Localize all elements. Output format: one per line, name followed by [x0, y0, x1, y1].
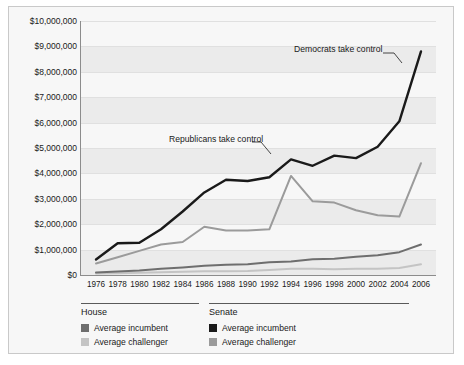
y-axis-tick-label: $0: [11, 271, 77, 280]
legend-group-senate: Senate Average incumbent Average challen…: [209, 307, 296, 351]
y-axis-tick-label: $6,000,000: [11, 119, 77, 128]
legend-swatch-senate-challenger: [209, 338, 217, 346]
y-axis-tick-label: $5,000,000: [11, 144, 77, 153]
legend-item-house-challenger[interactable]: Average challenger: [81, 337, 168, 347]
legend-group-senate-title: Senate: [209, 307, 296, 318]
legend-label-house-challenger: Average challenger: [94, 337, 168, 347]
legend-item-senate-challenger[interactable]: Average challenger: [209, 337, 296, 347]
x-axis-line: [80, 275, 436, 276]
data-series-layer: [81, 21, 436, 275]
plot-area: [81, 21, 436, 275]
annotation-republicans-take-control: Republicans take control: [169, 135, 263, 144]
y-axis-tick-label: $1,000,000: [11, 246, 77, 255]
legend-label-house-incumbent: Average incumbent: [94, 323, 168, 333]
chart-figure: $0$1,000,000$2,000,000$3,000,000$4,000,0…: [8, 6, 454, 354]
y-axis-tick-label: $10,000,000: [11, 17, 77, 26]
x-axis-tick-label: 2006: [408, 279, 434, 291]
y-axis-line: [80, 21, 81, 276]
legend-rule-senate: [209, 303, 409, 304]
legend-swatch-house-incumbent: [81, 324, 89, 332]
legend-swatch-house-challenger: [81, 338, 89, 346]
series-line: [96, 51, 421, 259]
y-axis-tick-label: $7,000,000: [11, 93, 77, 102]
y-axis-tick-label: $4,000,000: [11, 169, 77, 178]
y-axis-tick-label: $8,000,000: [11, 68, 77, 77]
series-line: [96, 264, 421, 273]
legend-rule-house: [81, 303, 199, 304]
legend-swatch-senate-incumbent: [209, 324, 217, 332]
legend-group-house-title: House: [81, 307, 168, 318]
y-axis-tick-label: $3,000,000: [11, 195, 77, 204]
legend-label-senate-challenger: Average challenger: [222, 337, 296, 347]
y-axis-tick-labels: $0$1,000,000$2,000,000$3,000,000$4,000,0…: [9, 7, 77, 307]
y-axis-tick-label: $9,000,000: [11, 42, 77, 51]
legend-group-house: House Average incumbent Average challeng…: [81, 307, 168, 351]
x-axis-tick-labels: 1976197819801982198419861988199019921994…: [81, 279, 436, 293]
y-axis-tick-label: $2,000,000: [11, 220, 77, 229]
legend-label-senate-incumbent: Average incumbent: [222, 323, 296, 333]
annotation-democrats-take-control: Democrats take control: [294, 45, 382, 54]
legend-item-house-incumbent[interactable]: Average incumbent: [81, 323, 168, 333]
legend-item-senate-incumbent[interactable]: Average incumbent: [209, 323, 296, 333]
